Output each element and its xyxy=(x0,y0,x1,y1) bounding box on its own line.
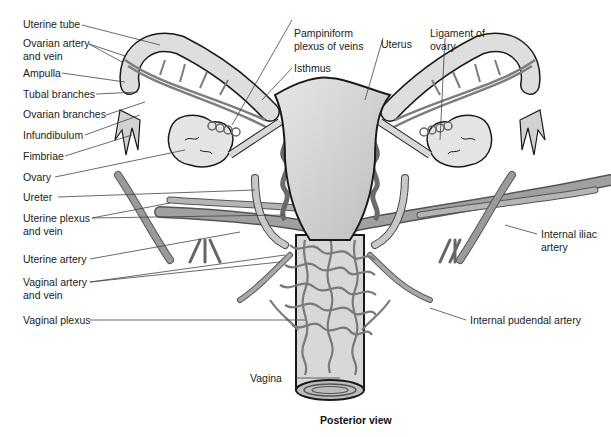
label-uterus: Uterus xyxy=(381,38,412,51)
label-internal-iliac-artery: Internal iliac artery xyxy=(541,228,597,254)
label-infundibulum: Infundibulum xyxy=(23,129,83,142)
label-uterine-tube: Uterine tube xyxy=(23,18,80,31)
label-isthmus: Isthmus xyxy=(294,62,331,75)
label-ampulla: Ampulla xyxy=(23,67,61,80)
label-uterine-plexus-vein: Uterine plexus and vein xyxy=(23,212,90,238)
figure-caption: Posterior view xyxy=(320,414,392,426)
label-vaginal-artery-vein: Vaginal artery and vein xyxy=(23,276,87,302)
label-ovarian-artery-vein: Ovarian artery and vein xyxy=(23,37,90,63)
label-ligament-of-ovary: Ligament of ovary xyxy=(430,27,485,53)
label-tubal-branches: Tubal branches xyxy=(23,88,95,101)
label-uterine-artery: Uterine artery xyxy=(23,253,87,266)
label-ovary: Ovary xyxy=(23,171,51,184)
label-ureter: Ureter xyxy=(23,191,52,204)
label-internal-pudendal-artery: Internal pudendal artery xyxy=(470,314,581,327)
label-vaginal-plexus: Vaginal plexus xyxy=(23,314,91,327)
label-vagina: Vagina xyxy=(250,372,282,385)
label-ovarian-branches: Ovarian branches xyxy=(23,108,106,121)
uterus xyxy=(275,78,390,240)
label-pampiniform-plexus: Pampiniform plexus of veins xyxy=(294,27,363,53)
label-fimbriae: Fimbriae xyxy=(23,150,64,163)
